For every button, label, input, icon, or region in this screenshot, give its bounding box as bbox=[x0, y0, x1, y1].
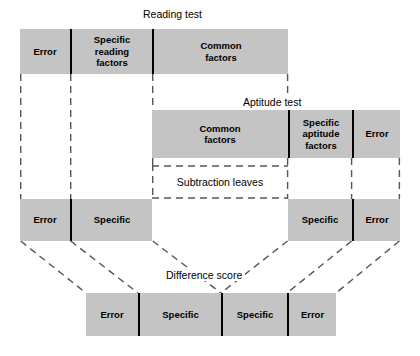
segment-reading-specific: Specific reading factors bbox=[70, 29, 152, 74]
dashed-diagonal-right-edge bbox=[336, 241, 399, 293]
subtraction-leaves-label: Subtraction leaves bbox=[175, 176, 265, 188]
segment-reading-error: Error bbox=[20, 29, 70, 74]
segment-residual-right-error: Error bbox=[352, 199, 400, 241]
segment-aptitude-error: Error bbox=[352, 110, 400, 158]
segment-reading-common: Common factors bbox=[152, 29, 288, 74]
row-label-difference-score: Difference score bbox=[163, 269, 245, 281]
bar-aptitude-test: Common factors Specific aptitude factors… bbox=[152, 110, 400, 158]
dashed-diagonal-left-edge bbox=[21, 241, 86, 293]
segment-aptitude-common: Common factors bbox=[152, 110, 288, 158]
bar-difference-score: Error Specific Specific Error bbox=[86, 293, 336, 336]
segment-difference-error-left: Error bbox=[86, 293, 138, 336]
dashed-diagonal-left-inner bbox=[153, 241, 221, 293]
dashed-diagonal-left-div bbox=[71, 241, 138, 293]
segment-residual-left-error: Error bbox=[20, 199, 70, 241]
bar-reading-test: Error Specific reading factors Common fa… bbox=[20, 29, 288, 74]
segment-residual-right-specific: Specific bbox=[288, 199, 352, 241]
segment-difference-specific-right: Specific bbox=[221, 293, 287, 336]
segment-difference-error-right: Error bbox=[287, 293, 336, 336]
subtraction-leaves-box: Subtraction leaves bbox=[152, 166, 288, 198]
bar-residual-right: Specific Error bbox=[288, 199, 400, 241]
segment-residual-left-specific: Specific bbox=[70, 199, 152, 241]
dashed-diagonal-right-div bbox=[287, 241, 352, 293]
segment-aptitude-specific: Specific aptitude factors bbox=[288, 110, 352, 158]
dashed-diagonal-right-inner bbox=[221, 241, 288, 293]
row-label-aptitude-test: Aptitude test bbox=[240, 96, 304, 108]
row-label-reading-test: Reading test bbox=[140, 8, 205, 20]
difference-score-variance-diagram: Reading test Error Specific reading fact… bbox=[0, 0, 420, 356]
bar-residual-left: Error Specific bbox=[20, 199, 152, 241]
segment-difference-specific-left: Specific bbox=[138, 293, 221, 336]
